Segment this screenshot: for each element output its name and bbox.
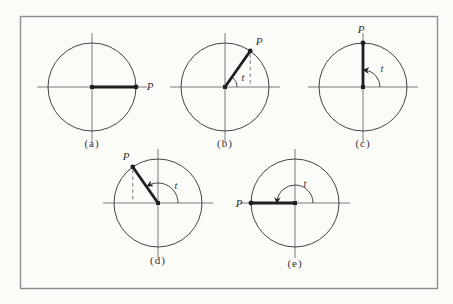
figure-frame [21,17,438,289]
subfigure-caption: (a) [84,137,99,150]
point-p-label: P [146,80,154,92]
origin-marker [361,85,365,89]
point-p-label: P [357,23,365,35]
radius-op [225,51,250,87]
subfigure-caption: (c) [355,137,370,150]
origin-marker [293,201,297,205]
angle-t-label: t [304,178,308,189]
origin-marker [90,85,94,89]
origin-marker [223,85,227,89]
angle-arc [364,70,380,87]
point-p-dot [130,165,135,170]
angle-arc [232,77,237,87]
point-p-label: P [122,150,130,162]
point-p-label: P [235,197,243,209]
circle-figure-d: Pt(d) [103,149,213,267]
subfigure-caption: (d) [150,254,166,267]
origin-marker [156,201,160,205]
angle-t-label: t [175,180,179,191]
point-p-dot [134,85,139,90]
circle-figure-b: Pt(b) [170,33,280,150]
angle-t-label: t [242,72,246,83]
point-p-label: P [255,35,263,47]
point-p-dot [361,41,366,46]
angle-arc [148,183,178,203]
radius-op [133,167,158,203]
scanned-textbook-page: P(a)Pt(b)Pt(c)Pt(d)Pt(e) [0,0,453,304]
point-p-dot [248,49,253,54]
angle-t-label: t [381,63,385,74]
circle-figure-c: Pt(c) [308,23,418,150]
circle-figure-e: Pt(e) [235,149,350,270]
circle-figure-a: P(a) [37,33,154,150]
subfigure-caption: (b) [217,137,233,150]
unit-circle-figures: P(a)Pt(b)Pt(c)Pt(d)Pt(e) [0,0,453,304]
subfigure-caption: (e) [287,257,302,270]
point-p-dot [249,201,254,206]
